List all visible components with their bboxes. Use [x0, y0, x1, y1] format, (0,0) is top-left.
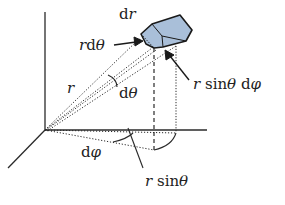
label-r-sin-theta-dphi: r sinθ dφ	[193, 77, 261, 92]
label-dr: dr	[119, 7, 136, 22]
spherical-volume-diagram: dr rdθ r dθ r sinθ dφ dφ r sinθ	[0, 0, 285, 205]
label-r-dtheta: rdθ	[79, 38, 105, 53]
volume-element	[141, 15, 192, 48]
label-dphi: dφ	[81, 145, 101, 160]
r-sin-theta-arc	[154, 133, 176, 150]
label-dtheta: dθ	[119, 86, 138, 101]
ground-projections	[45, 130, 176, 150]
r-sin-theta-leader	[128, 128, 143, 168]
radial-lines	[45, 38, 176, 131]
label-r-sin-theta: r sinθ	[145, 174, 188, 189]
diagram-canvas	[0, 0, 285, 205]
label-r: r	[67, 81, 74, 96]
dtheta-arc	[108, 75, 117, 87]
x-axis	[8, 130, 45, 168]
arrow-head-rdtheta	[134, 37, 143, 46]
